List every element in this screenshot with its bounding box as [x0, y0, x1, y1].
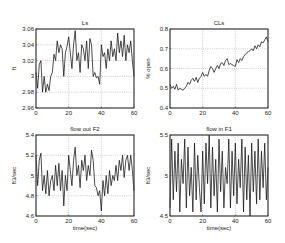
- y-tick-label: 3.02: [22, 58, 34, 64]
- x-tick-label: 20: [199, 218, 206, 224]
- y-tick-label: 0.5: [160, 85, 169, 91]
- y-tick-label: 2.98: [22, 89, 34, 95]
- x-tick-label: 0: [34, 110, 38, 116]
- x-axis-label: time(sec): [73, 225, 98, 231]
- x-tick-label: 20: [65, 218, 72, 224]
- y-tick-label: 3.04: [22, 42, 34, 48]
- subplot-flow-in-f1: flow in F1 ft3/sec time(sec) 02040604.55…: [145, 126, 272, 231]
- x-tick-label: 60: [265, 218, 272, 224]
- subplot-flow-out-f2: flow out F2 ft3/sec time(sec) 02040604.6…: [11, 126, 138, 231]
- subplot-ls: Ls ft 02040602.962.9833.023.043.06: [11, 20, 138, 116]
- chart-title: CLs: [214, 20, 225, 26]
- x-axis-label: time(sec): [207, 225, 232, 231]
- x-tick-label: 0: [168, 110, 172, 116]
- x-tick-label: 0: [34, 218, 38, 224]
- y-tick-label: 5.2: [26, 152, 35, 158]
- y-axis-label: ft3/sec: [11, 167, 17, 185]
- y-tick-label: 5.5: [160, 132, 169, 138]
- y-tick-label: 3.06: [22, 26, 34, 32]
- y-tick-label: 5.4: [26, 132, 35, 138]
- y-axis-label: ft3/sec: [145, 167, 151, 185]
- chart-title: flow out F2: [70, 126, 100, 132]
- x-tick-label: 40: [98, 218, 105, 224]
- y-tick-label: 3: [31, 73, 35, 79]
- chart-title: flow in F1: [206, 126, 232, 132]
- subplot-cls: CLs % open 02040600.40.50.60.70.8: [145, 20, 272, 116]
- chart-title: Ls: [82, 20, 88, 26]
- x-tick-label: 40: [232, 218, 239, 224]
- y-axis-label: ft: [11, 67, 17, 71]
- y-tick-label: 0.6: [160, 66, 169, 72]
- y-tick-label: 4.5: [160, 213, 169, 219]
- x-tick-label: 60: [265, 110, 272, 116]
- x-tick-label: 60: [131, 110, 138, 116]
- x-tick-label: 40: [98, 110, 105, 116]
- plot-area: [36, 29, 134, 108]
- x-tick-label: 20: [65, 110, 72, 116]
- y-tick-label: 2.96: [22, 105, 34, 111]
- y-tick-label: 0.7: [160, 46, 169, 52]
- y-tick-label: 0.4: [160, 105, 169, 111]
- x-tick-label: 40: [232, 110, 239, 116]
- y-axis-label: % open: [145, 58, 151, 78]
- y-tick-label: 0.8: [160, 26, 169, 32]
- y-tick-label: 4.6: [26, 213, 35, 219]
- x-tick-label: 0: [168, 218, 172, 224]
- y-tick-label: 4.8: [26, 193, 35, 199]
- y-tick-label: 5: [165, 173, 169, 179]
- x-tick-label: 60: [131, 218, 138, 224]
- y-tick-label: 5: [31, 173, 35, 179]
- x-tick-label: 20: [199, 110, 206, 116]
- figure: Ls ft 02040602.962.9833.023.043.06 CLs %…: [0, 0, 285, 243]
